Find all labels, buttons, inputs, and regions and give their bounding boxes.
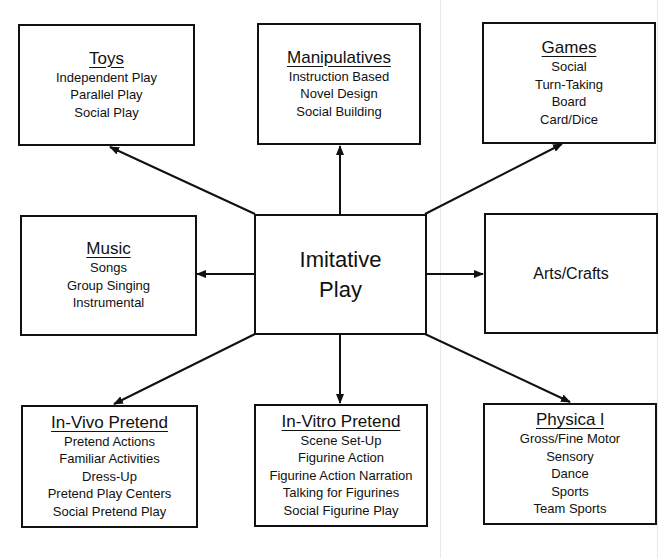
node-item: Instrumental — [73, 294, 145, 312]
node-item: Instruction Based — [289, 68, 389, 86]
node-item: Gross/Fine Motor — [520, 430, 620, 448]
node-item: Group Singing — [67, 277, 150, 295]
node-title: Toys — [89, 49, 124, 69]
node-item: Sensory — [546, 448, 594, 466]
node-item: Independent Play — [56, 69, 157, 87]
node-item: Songs — [90, 259, 127, 277]
node-center-imitative-play: Imitative Play — [254, 214, 427, 335]
arrow-to-physical — [425, 334, 570, 402]
node-item: Scene Set-Up — [301, 432, 382, 450]
node-games: Games Social Turn-Taking Board Card/Dice — [482, 22, 656, 144]
node-title: Music — [86, 239, 130, 259]
center-label-line: Imitative — [300, 245, 382, 275]
node-music: Music Songs Group Singing Instrumental — [20, 215, 197, 336]
node-item: Talking for Figurines — [283, 484, 399, 502]
node-item: Figurine Action — [298, 449, 384, 467]
node-title: In-Vitro Pretend — [282, 412, 401, 432]
node-item: Figurine Action Narration — [269, 467, 412, 485]
node-item: Turn-Taking — [535, 76, 603, 94]
node-title: In-Vivo Pretend — [51, 413, 168, 433]
node-in-vitro-pretend: In-Vitro Pretend Scene Set-Up Figurine A… — [254, 404, 428, 527]
node-item: Social — [551, 58, 586, 76]
node-arts-crafts: Arts/Crafts — [484, 213, 658, 334]
node-item: Social Play — [74, 104, 138, 122]
arrow-to-games — [425, 144, 562, 214]
node-physical: Physica l Gross/Fine Motor Sensory Dance… — [483, 403, 657, 525]
node-item: Familiar Activities — [59, 450, 159, 468]
node-item: Sports — [551, 483, 589, 501]
arrow-to-in-vivo — [114, 334, 255, 404]
node-item: Pretend Actions — [64, 433, 155, 451]
node-title: Games — [542, 38, 597, 58]
node-item: Social Figurine Play — [284, 502, 399, 520]
arrow-to-toys — [110, 147, 255, 214]
node-item: Parallel Play — [70, 86, 142, 104]
node-label: Arts/Crafts — [533, 265, 609, 283]
center-label-line: Play — [319, 275, 362, 305]
node-item: Dress-Up — [82, 468, 137, 486]
node-manipulatives: Manipulatives Instruction Based Novel De… — [257, 23, 421, 145]
node-item: Dance — [551, 465, 589, 483]
node-title: Physica l — [536, 410, 604, 430]
node-item: Card/Dice — [540, 111, 598, 129]
node-in-vivo-pretend: In-Vivo Pretend Pretend Actions Familiar… — [21, 405, 198, 528]
node-item: Social Pretend Play — [53, 503, 166, 521]
node-item: Social Building — [296, 103, 381, 121]
node-toys: Toys Independent Play Parallel Play Soci… — [18, 24, 195, 146]
node-item: Novel Design — [300, 85, 377, 103]
node-item: Board — [552, 93, 587, 111]
node-title: Manipulatives — [287, 48, 391, 68]
node-item: Team Sports — [534, 500, 607, 518]
node-item: Pretend Play Centers — [48, 485, 172, 503]
